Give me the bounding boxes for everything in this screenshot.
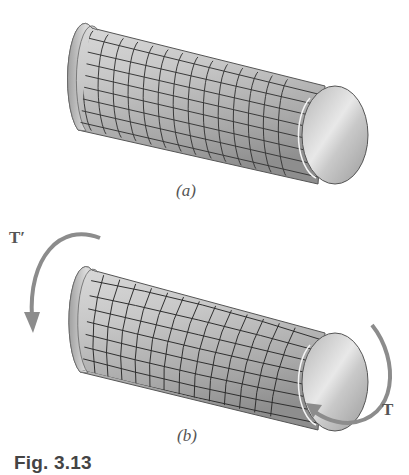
panel-b-label: (b): [177, 426, 197, 446]
torque-label-t-prime: T′: [9, 228, 25, 248]
cylinder-undeformed: [68, 23, 368, 184]
cylinder-twisted: [69, 267, 368, 431]
torque-label-t: T: [382, 400, 393, 420]
torsion-figure: [0, 0, 409, 475]
panel-a-label: (a): [176, 181, 196, 201]
figure-caption: Fig. 3.13: [14, 452, 92, 474]
